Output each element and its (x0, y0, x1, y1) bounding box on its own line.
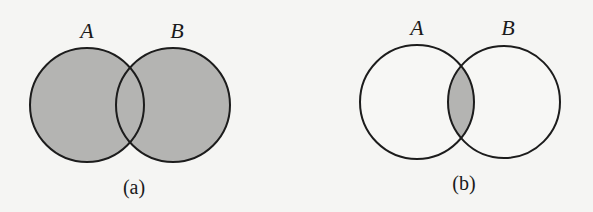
set-b-label: B (170, 18, 183, 43)
panel-b-caption: (b) (452, 172, 475, 195)
panel-a-union: A B (a) (30, 18, 230, 199)
panel-a-caption: (a) (123, 176, 145, 199)
venn-figure: A B (a) A B (b) (0, 0, 593, 212)
set-a-label: A (408, 15, 424, 40)
set-b-label: B (501, 15, 514, 40)
set-a-label: A (78, 18, 94, 43)
panel-b-intersection: A B (b) (360, 15, 560, 195)
